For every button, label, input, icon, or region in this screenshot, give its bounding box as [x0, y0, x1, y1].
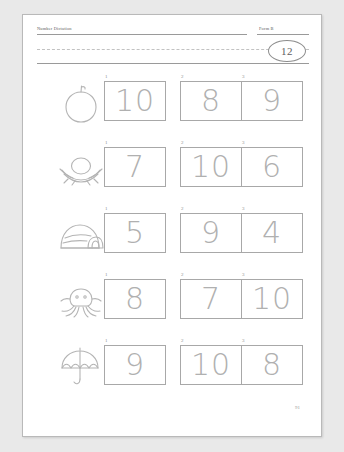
answer-cell: 36	[241, 147, 303, 187]
answer-cell: 28	[180, 81, 242, 121]
umbrella-icon	[53, 343, 109, 393]
question-row: 1827310	[23, 271, 323, 337]
answer-index-label: 3	[242, 206, 245, 211]
answer-value: 8	[125, 284, 145, 314]
answer-box[interactable]: 10	[180, 345, 242, 385]
apple-icon	[53, 79, 109, 129]
question-row: 1921038	[23, 337, 323, 403]
score-badge: 12	[268, 40, 306, 62]
answer-index-label: 3	[242, 140, 245, 145]
answer-value: 9	[201, 218, 221, 248]
question-rows: 1102839172103615293418273101921038	[23, 73, 323, 403]
name-rule	[37, 34, 247, 35]
answer-cell: 27	[180, 279, 242, 319]
answer-box[interactable]: 10	[180, 147, 242, 187]
answer-index-label: 1	[105, 140, 108, 145]
solid-divider	[37, 63, 309, 64]
answer-box[interactable]: 6	[241, 147, 303, 187]
answer-value: 9	[125, 350, 145, 380]
worksheet-page: Number Dictation Form B 12 1102839172103…	[22, 14, 322, 437]
octopus-icon	[53, 277, 109, 327]
answer-box[interactable]: 9	[241, 81, 303, 121]
answer-box[interactable]: 7	[104, 147, 166, 187]
question-row: 1102839	[23, 73, 323, 139]
question-row: 152934	[23, 205, 323, 271]
answer-box[interactable]: 9	[180, 213, 242, 253]
page-number: 91	[295, 405, 300, 410]
answer-value: 7	[125, 152, 145, 182]
answer-box[interactable]: 4	[241, 213, 303, 253]
answer-value: 10	[191, 350, 231, 380]
answer-value: 9	[262, 86, 282, 116]
answer-cell: 19	[104, 345, 166, 385]
answer-box[interactable]: 9	[104, 345, 166, 385]
answer-cell: 29	[180, 213, 242, 253]
answer-value: 10	[115, 86, 155, 116]
answer-box[interactable]: 8	[104, 279, 166, 319]
answer-cell: 39	[241, 81, 303, 121]
answer-box[interactable]: 5	[104, 213, 166, 253]
question-row: 1721036	[23, 139, 323, 205]
answer-value: 6	[262, 152, 282, 182]
answer-index-label: 2	[181, 338, 184, 343]
answer-value: 7	[201, 284, 221, 314]
answer-index-label: 1	[105, 206, 108, 211]
answer-cell: 310	[241, 279, 303, 319]
answer-index-label: 1	[105, 74, 108, 79]
answer-value: 5	[125, 218, 145, 248]
answer-index-label: 2	[181, 206, 184, 211]
egg-nest-icon	[53, 145, 109, 195]
worksheet-header: Number Dictation Form B	[37, 26, 309, 37]
answer-value: 10	[252, 284, 292, 314]
answer-cell: 110	[104, 81, 166, 121]
answer-index-label: 2	[181, 272, 184, 277]
answer-cell: 38	[241, 345, 303, 385]
answer-value: 8	[201, 86, 221, 116]
form-label: Form B	[259, 26, 274, 31]
answer-value: 4	[262, 218, 282, 248]
answer-value: 10	[191, 152, 231, 182]
answer-cell: 17	[104, 147, 166, 187]
igloo-icon	[53, 211, 109, 261]
answer-index-label: 2	[181, 140, 184, 145]
answer-box[interactable]: 8	[180, 81, 242, 121]
answer-cell: 210	[180, 147, 242, 187]
answer-index-label: 1	[105, 272, 108, 277]
answer-index-label: 1	[105, 338, 108, 343]
answer-value: 8	[262, 350, 282, 380]
answer-box[interactable]: 7	[180, 279, 242, 319]
answer-cell: 210	[180, 345, 242, 385]
form-rule	[257, 34, 309, 35]
answer-index-label: 3	[242, 272, 245, 277]
answer-box[interactable]: 10	[104, 81, 166, 121]
answer-cell: 15	[104, 213, 166, 253]
answer-box[interactable]: 10	[241, 279, 303, 319]
page-title: Number Dictation	[37, 26, 72, 31]
answer-index-label: 3	[242, 338, 245, 343]
answer-index-label: 3	[242, 74, 245, 79]
answer-cell: 34	[241, 213, 303, 253]
answer-box[interactable]: 8	[241, 345, 303, 385]
answer-index-label: 2	[181, 74, 184, 79]
answer-cell: 18	[104, 279, 166, 319]
